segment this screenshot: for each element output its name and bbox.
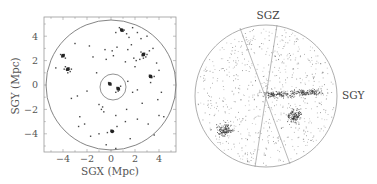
sky-point [285, 94, 286, 95]
sky-point [308, 60, 309, 61]
sky-point [311, 93, 312, 94]
sky-point [297, 118, 298, 119]
sky-point [276, 97, 277, 98]
galaxy-point [115, 92, 116, 93]
y-tick-label: 0 [32, 79, 38, 90]
sky-point [227, 124, 228, 125]
sky-point [316, 61, 317, 62]
sky-point [290, 115, 291, 116]
sky-point [263, 96, 264, 97]
sky-point [290, 112, 291, 113]
sky-point [229, 109, 230, 110]
sky-point [218, 133, 219, 134]
sky-point [292, 108, 293, 109]
sky-point [323, 95, 324, 96]
sky-point [298, 123, 299, 124]
sky-point [271, 88, 272, 89]
sky-point [304, 134, 305, 135]
sky-point [243, 156, 244, 157]
galaxy-point [143, 57, 144, 58]
sky-point [280, 147, 281, 148]
sky-point [317, 91, 318, 92]
sky-point [333, 107, 334, 108]
sgz-direction-label: SGZ [257, 9, 280, 21]
sky-point [248, 110, 249, 111]
sky-point [210, 129, 211, 130]
sky-point [282, 127, 283, 128]
sky-point [219, 130, 220, 131]
sky-point [296, 122, 297, 123]
sky-point [203, 81, 204, 82]
galaxy-point [132, 92, 133, 93]
sky-point [278, 47, 279, 48]
sky-point [321, 91, 322, 92]
sky-point [269, 135, 270, 136]
sky-point [204, 80, 205, 81]
sky-point [291, 90, 292, 91]
sky-point [296, 110, 297, 111]
sky-point [227, 129, 228, 130]
sky-point [308, 122, 309, 123]
sky-point [294, 117, 295, 118]
sky-point [283, 161, 284, 162]
sky-point [277, 121, 278, 122]
sky-point [242, 150, 243, 151]
sky-point [266, 79, 267, 80]
sky-point [284, 46, 285, 47]
sky-point [269, 40, 270, 41]
sky-point [278, 136, 279, 137]
sky-point [264, 76, 265, 77]
left-scatter-points [55, 27, 164, 149]
sky-point [327, 73, 328, 74]
sky-point [211, 105, 212, 106]
sky-point [245, 153, 246, 154]
sky-point [293, 120, 294, 121]
sky-point [245, 116, 246, 117]
sky-point [249, 44, 250, 45]
sky-point [278, 160, 279, 161]
sky-point [234, 101, 235, 102]
sky-point [280, 120, 281, 121]
sky-point [288, 94, 289, 95]
sky-point [287, 108, 288, 109]
sky-point [292, 139, 293, 140]
sky-point [248, 85, 249, 86]
sky-point [260, 116, 261, 117]
sky-point [323, 72, 324, 73]
sky-point [217, 106, 218, 107]
sky-point [293, 97, 294, 98]
galaxy-point [113, 55, 114, 56]
sky-point [287, 91, 288, 92]
sky-point [324, 119, 325, 120]
sky-point [200, 76, 201, 77]
sky-point [240, 47, 241, 48]
sky-point [302, 79, 303, 80]
sky-point [268, 65, 269, 66]
sky-point [314, 94, 315, 95]
sky-point [320, 63, 321, 64]
sky-point [229, 136, 230, 137]
galaxy-point [74, 43, 75, 44]
sky-point [300, 118, 301, 119]
sky-point [262, 139, 263, 140]
sky-point [210, 128, 211, 129]
galaxy-point [98, 104, 99, 105]
sky-point [204, 70, 205, 71]
sky-point [263, 128, 264, 129]
sky-point [271, 52, 272, 53]
sky-point [223, 129, 224, 130]
galaxy-point [150, 82, 151, 83]
sky-point [206, 67, 207, 68]
sky-point [223, 136, 224, 137]
sky-point [240, 158, 241, 159]
sky-point [230, 126, 231, 127]
y-tick-label: −4 [24, 128, 38, 139]
sky-point [238, 92, 239, 93]
sky-point [248, 61, 249, 62]
sky-point [305, 102, 306, 103]
galaxy-point [156, 62, 157, 63]
sky-point [229, 57, 230, 58]
sky-point [293, 122, 294, 123]
sky-point [221, 128, 222, 129]
sky-point [277, 44, 278, 45]
